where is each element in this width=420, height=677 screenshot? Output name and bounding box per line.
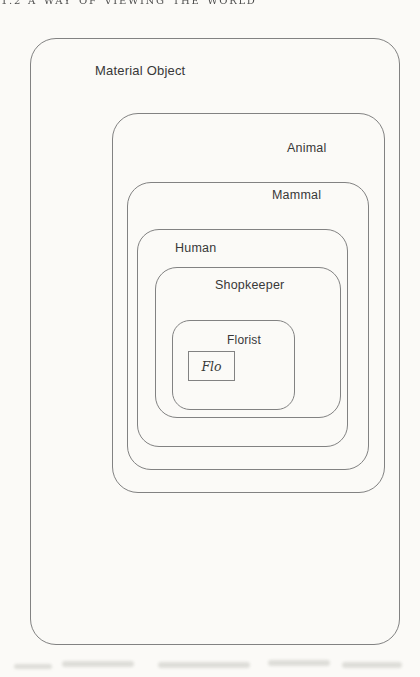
show-through-smudge [62, 661, 134, 667]
running-head: 1.2A WAY OF VIEWING THE WORLD [1, 0, 256, 6]
label-material-object: Material Object [95, 63, 185, 78]
show-through-smudge [268, 660, 330, 666]
show-through-smudge [342, 662, 402, 668]
running-head-section: 1.2 [1, 0, 22, 6]
label-animal: Animal [287, 141, 326, 155]
show-through-smudge [158, 662, 250, 668]
label-flo: Flo [201, 359, 221, 374]
book-page: 1.2A WAY OF VIEWING THE WORLD Material O… [0, 0, 420, 677]
label-human: Human [175, 241, 216, 255]
label-shopkeeper: Shopkeeper [215, 278, 284, 292]
box-flo: Flo [188, 351, 235, 381]
label-florist: Florist [227, 333, 261, 347]
running-head-title: A WAY OF VIEWING THE WORLD [28, 0, 256, 6]
label-mammal: Mammal [272, 188, 321, 202]
show-through-smudge [14, 664, 52, 669]
